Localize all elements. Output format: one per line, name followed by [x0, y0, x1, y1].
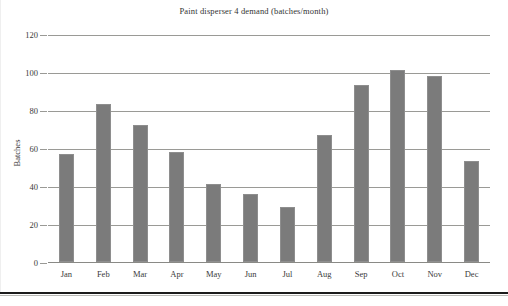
y-axis-tick-label: 40: [4, 182, 38, 192]
y-axis-tick-mark: [40, 263, 47, 264]
bar: [96, 104, 111, 262]
y-axis-tick-mark: [40, 187, 47, 188]
y-axis-tick-mark: [40, 35, 47, 36]
y-axis-tick-mark: [40, 73, 47, 74]
bar: [317, 135, 332, 262]
x-axis-tick-label: Dec: [450, 269, 494, 279]
y-axis-tick-label: 80: [4, 106, 38, 116]
chart-title: Paint disperser 4 demand (batches/month): [0, 6, 508, 16]
gridline: [48, 187, 490, 188]
gridline: [48, 149, 490, 150]
gridline: [48, 35, 490, 36]
y-axis-tick-mark: [40, 149, 47, 150]
y-axis-tick-label: 120: [4, 30, 38, 40]
bar: [243, 194, 258, 262]
y-axis-tick-label: 20: [4, 220, 38, 230]
x-axis-baseline: [48, 262, 490, 263]
bar: [206, 184, 221, 262]
page-bottom-rule-secondary: [0, 295, 508, 296]
page-bottom-rule: [0, 292, 508, 294]
plot-area: 120100806040200JanFebMarAprMayJunJulAugS…: [48, 35, 490, 263]
page-edge-decoration: [0, 0, 1, 292]
gridline: [48, 111, 490, 112]
y-axis-tick-label: 60: [4, 144, 38, 154]
y-axis-tick-mark: [40, 111, 47, 112]
bar: [169, 152, 184, 262]
gridline: [48, 73, 490, 74]
gridline: [48, 225, 490, 226]
bar: [354, 85, 369, 262]
bar: [464, 161, 479, 262]
bar: [390, 70, 405, 262]
y-axis-tick-label: 100: [4, 68, 38, 78]
bar: [133, 125, 148, 262]
bar-chart-figure: Paint disperser 4 demand (batches/month)…: [0, 0, 508, 306]
bar: [427, 76, 442, 262]
y-axis-tick-mark: [40, 225, 47, 226]
bar: [280, 207, 295, 262]
y-axis-tick-label: 0: [4, 258, 38, 268]
bar: [59, 154, 74, 262]
